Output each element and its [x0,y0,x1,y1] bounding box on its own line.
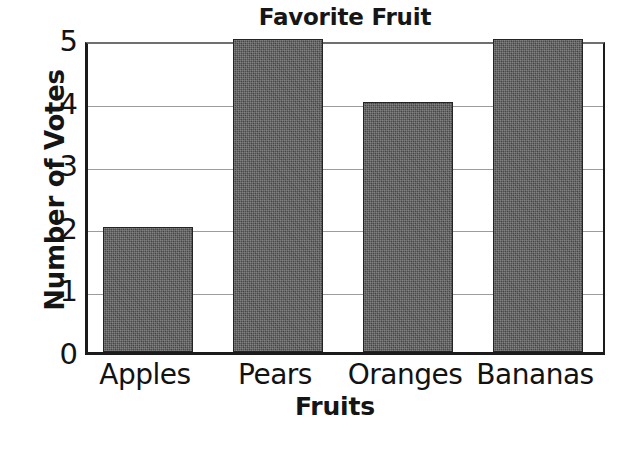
bar [363,102,453,352]
y-axis-tick-label: 1 [0,277,78,306]
x-axis-tick-label: Apples [80,358,210,392]
x-axis-tick-label: Oranges [340,358,470,392]
y-axis-tick-label: 2 [0,215,78,244]
chart-figure: Favorite Fruit Number of Votes Fruits 01… [0,0,621,463]
bar [103,227,193,352]
x-axis-tick-label: Bananas [470,358,600,392]
chart-title: Favorite Fruit [85,2,605,32]
x-axis-tick-label: Pears [210,358,340,392]
plot-inner [88,44,603,352]
x-axis-title: Fruits [85,392,585,421]
y-axis-tick-label: 4 [0,90,78,119]
y-axis-tick-label: 5 [0,27,78,56]
y-axis-tick-label: 3 [0,152,78,181]
bar [493,39,583,352]
bar [233,39,323,352]
plot-area [85,42,605,355]
y-axis-tick-label: 0 [0,340,78,369]
